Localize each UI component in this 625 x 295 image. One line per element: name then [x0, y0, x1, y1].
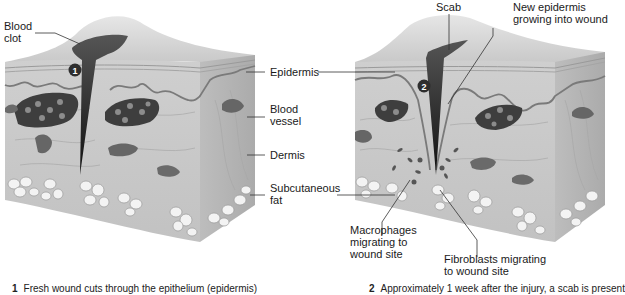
svg-text:1: 1	[72, 66, 77, 76]
label-fibroblasts: Fibroblasts migrating to wound site	[444, 253, 546, 277]
panel-1-skin-block: 1	[5, 16, 255, 242]
label-macrophages: Macrophages migrating to wound site	[350, 224, 417, 260]
label-subcutaneous-fat: Subcutaneous fat	[270, 182, 340, 206]
label-scab: Scab	[436, 1, 461, 13]
caption-step-1: 1Fresh wound cuts through the epithelium…	[12, 283, 257, 295]
label-epidermis: Epidermis	[270, 66, 319, 78]
label-blood-clot: Blood clot	[4, 20, 32, 44]
svg-text:2: 2	[421, 82, 426, 92]
label-new-epidermis: New epidermis growing into wound	[513, 1, 608, 25]
label-blood-vessel: Blood vessel	[270, 103, 301, 127]
label-dermis: Dermis	[270, 149, 305, 161]
caption-step-2: 2Approximately 1 week after the injury, …	[369, 283, 625, 295]
panel-2-skin-block: 2	[355, 15, 605, 242]
